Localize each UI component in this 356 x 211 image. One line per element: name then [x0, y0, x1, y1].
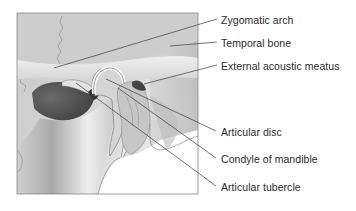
label-external-acoustic-meatus: External acoustic meatus	[221, 60, 340, 72]
label-zygomatic-arch: Zygomatic arch	[221, 14, 293, 26]
label-condyle-of-mandible: Condyle of mandible	[221, 153, 318, 165]
label-articular-disc: Articular disc	[221, 126, 282, 138]
tmj-illustration	[0, 0, 356, 211]
label-articular-tubercle: Articular tubercle	[221, 181, 301, 193]
label-temporal-bone: Temporal bone	[221, 37, 291, 49]
illustration-body	[17, 13, 198, 194]
